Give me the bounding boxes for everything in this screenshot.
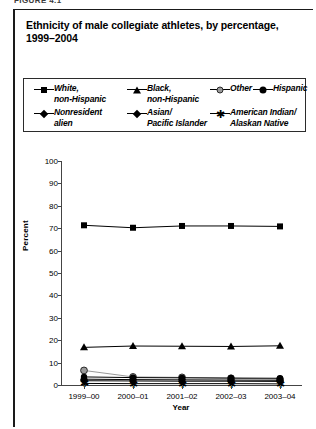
square-marker-point (81, 222, 87, 228)
x-axis-tick (84, 385, 85, 389)
series-layer: ✱✱✱✱✱ (62, 161, 302, 385)
y-axis-tick-label: 90 (49, 179, 58, 188)
series-square-marker (81, 222, 283, 230)
series-triangle-marker (80, 342, 284, 351)
legend-label: Hispanic (273, 83, 307, 94)
square-marker-point (179, 223, 185, 229)
y-axis-tick-label: 70 (49, 224, 58, 233)
legend-label: American Indian/ Alaskan Native (230, 107, 296, 128)
x-axis-tick-label: 2000–01 (117, 392, 148, 401)
page-title: Ethnicity of male collegiate athletes, b… (26, 19, 294, 45)
circle-open-marker-point (81, 367, 88, 374)
circle-filled-marker-icon (253, 84, 273, 95)
square-marker-point (277, 223, 283, 229)
legend-item-black: Black, non-Hispanic (127, 83, 199, 104)
chart-legend: White, non-Hispanic Black, non-Hispanic … (23, 78, 306, 132)
legend-item-other: Other (210, 83, 252, 95)
x-axis-tick (182, 385, 183, 389)
y-axis-tick-label: 10 (49, 358, 58, 367)
y-axis-tick (58, 385, 62, 386)
legend-label: White, non-Hispanic (54, 83, 106, 104)
chart-plot: Percent ✱✱✱✱✱ 01020304050607080901001999… (23, 155, 308, 420)
triangle-marker-point (276, 342, 284, 349)
y-axis-tick (58, 273, 62, 274)
x-axis-tick (231, 385, 232, 389)
y-axis-tick-label: 20 (49, 336, 58, 345)
y-axis-tick (58, 183, 62, 184)
x-axis-title: Year (61, 403, 301, 412)
y-axis-tick (58, 206, 62, 207)
legend-row-1: White, non-Hispanic Black, non-Hispanic … (24, 83, 305, 107)
y-axis-title: Percent (21, 220, 30, 251)
legend-label: Asian/ Pacific Islander (147, 107, 207, 128)
y-axis-tick-label: 80 (49, 201, 58, 210)
square-marker-point (130, 225, 136, 231)
y-axis-tick-label: 60 (49, 246, 58, 255)
square-marker-icon (34, 84, 54, 95)
figure-label: FIGURE 4.1 (14, 0, 62, 5)
legend-item-white: White, non-Hispanic (34, 83, 106, 104)
triangle-marker-point (129, 342, 137, 349)
y-axis-tick (58, 295, 62, 296)
diamond-marker-icon (127, 108, 147, 119)
square-marker-point (228, 223, 234, 229)
x-axis-tick-label: 1999–00 (68, 392, 99, 401)
star-marker-icon: ✱ (210, 108, 230, 119)
legend-item-asian-pacific-islander: Asian/ Pacific Islander (127, 107, 207, 128)
y-axis-tick (58, 161, 62, 162)
triangle-marker-icon (127, 84, 147, 95)
circle-open-marker-icon (210, 84, 230, 95)
legend-row-2: Nonresident alien Asian/ Pacific Islande… (24, 107, 305, 131)
y-axis-tick (58, 363, 62, 364)
y-axis-tick-label: 50 (49, 269, 58, 278)
x-axis-tick-label: 2001–02 (166, 392, 197, 401)
y-axis-tick-label: 30 (49, 313, 58, 322)
legend-label: Other (230, 83, 252, 94)
x-axis-tick (133, 385, 134, 389)
y-axis-tick (58, 318, 62, 319)
x-axis-tick-label: 2003–04 (264, 392, 295, 401)
y-axis-tick (58, 251, 62, 252)
x-axis-tick-label: 2002–03 (215, 392, 246, 401)
legend-label: Nonresident alien (54, 107, 102, 128)
y-axis-tick-label: 100 (45, 157, 58, 166)
y-axis-tick (58, 340, 62, 341)
y-axis-tick-label: 0 (54, 381, 58, 390)
legend-item-hispanic: Hispanic (253, 83, 307, 95)
legend-item-american-indian-alaskan-native: ✱ American Indian/ Alaskan Native (210, 107, 296, 128)
y-axis-tick (58, 228, 62, 229)
y-axis-tick-label: 40 (49, 291, 58, 300)
legend-label: Black, non-Hispanic (147, 83, 199, 104)
legend-item-nonresident-alien: Nonresident alien (34, 107, 102, 128)
diamond-marker-icon (34, 108, 54, 119)
plot-axes: ✱✱✱✱✱ 01020304050607080901001999–002000–… (61, 161, 302, 386)
x-axis-tick (280, 385, 281, 389)
